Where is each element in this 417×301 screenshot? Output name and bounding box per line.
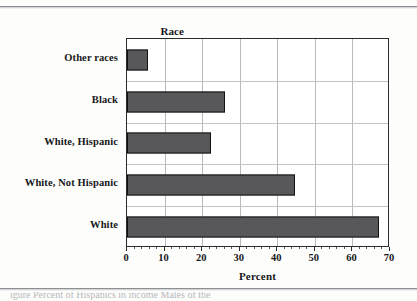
x-tick-minor <box>374 247 375 249</box>
category-label: White <box>0 219 118 230</box>
category-label: Black <box>0 94 118 105</box>
x-tick-minor <box>209 247 210 249</box>
bar-row <box>127 206 388 248</box>
x-tick-minor <box>246 247 247 249</box>
x-axis-title: Percent <box>126 270 389 282</box>
x-tick-minor <box>291 247 292 249</box>
figure-caption-text: igure Percent of Hispanics in income Mal… <box>10 292 211 300</box>
x-tick-major <box>126 247 127 251</box>
x-tick-minor <box>179 247 180 249</box>
x-tick-minor <box>261 247 262 249</box>
x-tick-major <box>389 247 390 251</box>
x-tick-minor <box>306 247 307 249</box>
x-tick-label: 50 <box>294 252 334 263</box>
x-tick-minor <box>156 247 157 249</box>
x-tick-minor <box>134 247 135 249</box>
category-label: Other races <box>0 52 118 63</box>
x-tick-minor <box>381 247 382 249</box>
x-tick-minor <box>284 247 285 249</box>
x-tick-minor <box>336 247 337 249</box>
x-tick-minor <box>194 247 195 249</box>
category-label: White, Hispanic <box>0 136 118 147</box>
x-tick-major <box>239 247 240 251</box>
bar <box>127 175 295 196</box>
x-tick-major <box>351 247 352 251</box>
x-tick-label: 70 <box>369 252 409 263</box>
x-tick-label: 10 <box>144 252 184 263</box>
bar-row <box>127 164 388 206</box>
page-rule-top-shadow <box>0 7 417 9</box>
bar-row <box>127 39 388 81</box>
x-tick-label: 40 <box>256 252 296 263</box>
x-tick-minor <box>299 247 300 249</box>
x-tick-major <box>314 247 315 251</box>
x-tick-minor <box>359 247 360 249</box>
x-tick-minor <box>366 247 367 249</box>
plot-area <box>126 38 389 247</box>
bar <box>127 217 379 238</box>
axis-group-title: Race <box>74 25 184 37</box>
x-tick-minor <box>344 247 345 249</box>
x-tick-minor <box>269 247 270 249</box>
category-label: White, Not Hispanic <box>0 177 118 188</box>
x-tick-minor <box>141 247 142 249</box>
bar-row <box>127 123 388 165</box>
x-tick-minor <box>149 247 150 249</box>
bar <box>127 91 225 112</box>
x-tick-label: 0 <box>106 252 146 263</box>
x-tick-minor <box>254 247 255 249</box>
x-tick-label: 30 <box>219 252 259 263</box>
x-tick-minor <box>231 247 232 249</box>
chart-page: Race Other racesBlackWhite, HispanicWhit… <box>0 0 417 301</box>
figure-caption-clipped: igure Percent of Hispanics in income Mal… <box>0 292 417 301</box>
x-tick-minor <box>329 247 330 249</box>
x-tick-major <box>276 247 277 251</box>
bar <box>127 49 148 70</box>
x-tick-minor <box>224 247 225 249</box>
x-tick-major <box>164 247 165 251</box>
x-tick-label: 20 <box>181 252 221 263</box>
page-rule-bottom-shadow <box>0 289 417 291</box>
x-tick-major <box>201 247 202 251</box>
x-tick-minor <box>321 247 322 249</box>
x-tick-minor <box>186 247 187 249</box>
bar-row <box>127 81 388 123</box>
x-tick-minor <box>171 247 172 249</box>
x-tick-minor <box>216 247 217 249</box>
x-tick-label: 60 <box>331 252 371 263</box>
bar <box>127 133 211 154</box>
